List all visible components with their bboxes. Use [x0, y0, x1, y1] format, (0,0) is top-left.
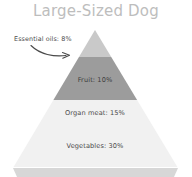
- pyramid-base-bar: [13, 168, 178, 177]
- pyramid-band-vegetables: [14, 135, 178, 167]
- segment-label-fruit: Fruit: 10%: [78, 76, 113, 84]
- segment-label-vegetables: Vegetables: 30%: [67, 142, 124, 150]
- essential-oils-callout-arrow: [31, 46, 70, 59]
- segment-label-essential-oils: Essential oils: 8%: [14, 35, 72, 43]
- pyramid-band-organ-meat: [33, 100, 159, 135]
- pyramid-band-essential-oils: [79, 30, 111, 57]
- pyramid-chart: Large-Sized Dog Essential oils: 8% Fruit…: [0, 0, 192, 177]
- segment-label-organ-meat: Organ meat: 15%: [65, 109, 125, 117]
- pyramid-graphic: Essential oils: 8% Fruit: 10% Organ meat…: [0, 0, 192, 177]
